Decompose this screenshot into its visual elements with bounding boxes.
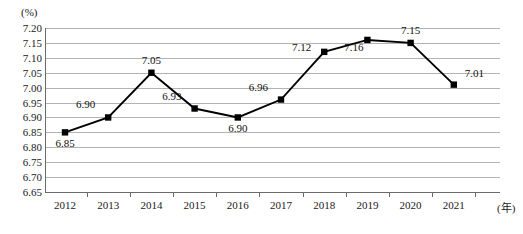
x-axis-tick-mark — [173, 192, 174, 197]
data-point-label: 6.96 — [249, 81, 268, 93]
x-axis-tick-label: 2019 — [356, 199, 378, 211]
data-point-marker[interactable] — [105, 114, 111, 120]
data-point-label: 7.05 — [142, 54, 161, 66]
data-point-label: 6.93 — [162, 90, 181, 102]
x-axis-tick-mark — [389, 192, 390, 197]
x-axis-tick-mark — [259, 192, 260, 197]
data-point-marker[interactable] — [235, 114, 241, 120]
x-axis-tick-label: 2018 — [313, 199, 335, 211]
line-chart: (%) 7.207.157.107.057.006.956.906.856.80… — [0, 0, 523, 234]
data-point-label: 7.15 — [401, 24, 420, 36]
data-point-label: 6.90 — [228, 122, 247, 134]
data-point-marker[interactable] — [278, 96, 284, 102]
data-point-marker[interactable] — [148, 70, 154, 76]
x-axis-tick-mark — [432, 192, 433, 197]
data-point-label: 7.16 — [344, 41, 363, 53]
data-point-label: 7.12 — [292, 41, 311, 53]
data-point-marker[interactable] — [62, 129, 68, 135]
x-axis-tick-mark — [130, 192, 131, 197]
x-axis-tick-mark — [216, 192, 217, 197]
x-axis-tick-mark — [346, 192, 347, 197]
data-point-marker[interactable] — [191, 105, 197, 111]
data-point-label: 6.85 — [55, 137, 74, 149]
data-point-marker[interactable] — [407, 40, 413, 46]
x-axis-unit-label: (年) — [497, 199, 515, 215]
data-point-label: 6.90 — [76, 98, 95, 110]
x-axis-tick-label: 2016 — [227, 199, 249, 211]
x-axis-tick-mark — [303, 192, 304, 197]
x-axis-tick-label: 2013 — [97, 199, 119, 211]
x-axis-tick-mark — [87, 192, 88, 197]
x-axis-tick-label: 2012 — [54, 199, 76, 211]
data-point-marker[interactable] — [321, 49, 327, 55]
x-axis-tick-label: 2015 — [184, 199, 206, 211]
data-point-marker[interactable] — [364, 37, 370, 43]
x-axis-tick-label: 2021 — [443, 199, 465, 211]
x-axis-tick-label: 2014 — [140, 199, 162, 211]
x-axis-tick-label: 2020 — [400, 199, 422, 211]
data-point-label: 7.01 — [465, 67, 484, 79]
x-axis-tick-label: 2017 — [270, 199, 292, 211]
data-point-marker[interactable] — [451, 81, 457, 87]
x-axis-tick-mark — [475, 192, 476, 197]
